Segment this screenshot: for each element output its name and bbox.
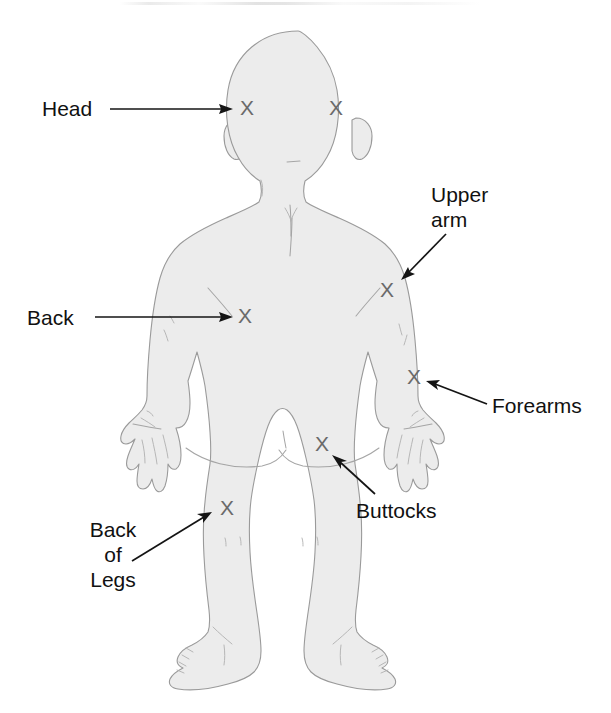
body-outline (121, 31, 445, 690)
leader-forearms (435, 384, 487, 404)
knee-crease-right-a (302, 538, 303, 546)
label-buttocks: Buttocks (356, 498, 437, 523)
label-back: Back (27, 305, 74, 330)
label-head: Head (42, 96, 92, 121)
right-ear (352, 118, 372, 160)
marker-back[interactable]: X (238, 304, 252, 327)
marker-back-of-legs[interactable]: X (220, 496, 234, 519)
label-upper-arm: Upper arm (431, 182, 488, 232)
label-back-of-legs: Back of Legs (76, 517, 150, 592)
marker-buttocks[interactable]: X (315, 432, 329, 455)
marker-upper-arm[interactable]: X (380, 278, 394, 301)
marker-head-right[interactable]: X (329, 96, 343, 119)
leader-upper-arm (409, 234, 446, 272)
gluteal-cleft (283, 431, 286, 448)
body-diagram-figure: X X X X X X X (0, 0, 611, 713)
marker-head-left[interactable]: X (240, 96, 254, 119)
marker-forearm[interactable]: X (407, 365, 421, 388)
label-forearms: Forearms (492, 393, 582, 418)
body-silhouette-group (121, 31, 445, 690)
